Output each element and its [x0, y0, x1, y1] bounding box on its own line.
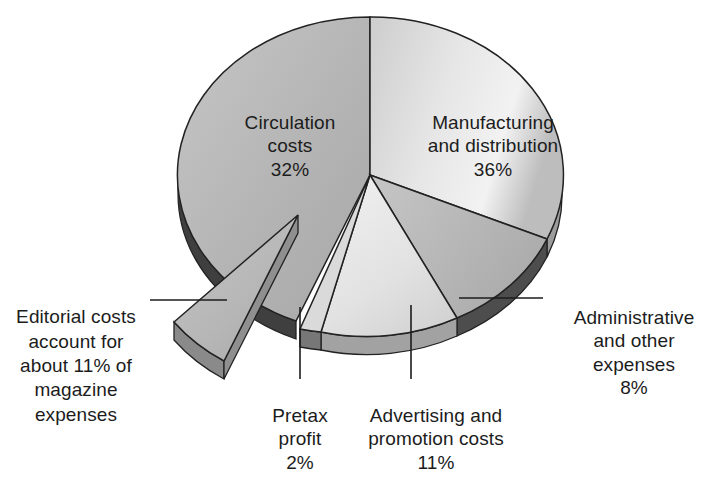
- slice-label-manufacturing: Manufacturing and distribution 36%: [388, 88, 598, 204]
- slice-label-pretax: Pretax profit 2%: [246, 381, 354, 481]
- slice-label-editorial-text: Editorial costs account for about 11% of…: [16, 306, 136, 424]
- slice-label-editorial: Editorial costs account for about 11% of…: [2, 281, 150, 427]
- slice-label-circulation-text: Circulation costs: [245, 112, 336, 156]
- slice-label-pretax-percent: 2%: [246, 451, 354, 474]
- slice-label-advertising: Advertising and promotion costs 11%: [352, 381, 520, 481]
- slice-label-manufacturing-text: Manufacturing and distribution: [428, 112, 558, 156]
- slice-label-advertising-text: Advertising and promotion costs: [368, 405, 504, 449]
- slice-label-pretax-text: Pretax profit: [272, 405, 328, 449]
- slice-label-administrative-percent: 8%: [548, 376, 720, 399]
- slice-label-circulation: Circulation costs 32%: [206, 88, 374, 204]
- slice-label-administrative-text: Administrative and other expenses: [574, 307, 695, 374]
- slice-label-advertising-percent: 11%: [352, 451, 520, 474]
- pie-chart-figure: Circulation costs 32% Manufacturing and …: [0, 0, 725, 481]
- slice-label-manufacturing-percent: 36%: [388, 158, 598, 181]
- slice-label-administrative: Administrative and other expenses 8%: [548, 283, 720, 422]
- slice-label-circulation-percent: 32%: [206, 158, 374, 181]
